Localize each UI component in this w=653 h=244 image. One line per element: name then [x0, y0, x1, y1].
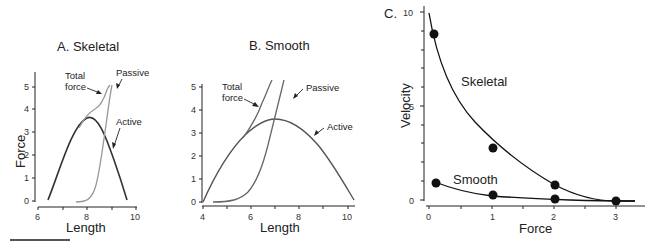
arrowhead-icon — [252, 102, 259, 107]
divider — [10, 239, 70, 241]
passive-label: Passive — [306, 82, 339, 93]
x-axis-label: Force — [519, 221, 552, 236]
total-force-label: force — [65, 81, 86, 92]
active-label: Active — [327, 121, 353, 132]
x-tick-label: 6 — [35, 212, 40, 222]
y-tick-label: 1 — [24, 173, 29, 183]
x-tick-label: 1 — [490, 212, 495, 222]
figure: A. Skeletal 0 1 2 3 4 5 6 8 10 Length Fo… — [0, 0, 653, 244]
smooth-point — [551, 195, 560, 204]
y-tick-label: 2 — [191, 151, 196, 161]
arrowhead-icon — [314, 130, 319, 136]
panel-a-title: A. Skeletal — [57, 39, 119, 54]
skeletal-point — [551, 181, 560, 190]
skeletal-point — [430, 30, 439, 39]
panel-skeletal-length-force: A. Skeletal 0 1 2 3 4 5 6 8 10 Length Fo… — [13, 39, 149, 235]
x-axis-label: Length — [260, 220, 300, 235]
x-tick-label: 6 — [248, 212, 253, 222]
smooth-point — [432, 179, 441, 188]
total-force-label: Total — [65, 70, 85, 81]
y-axis-label: Force — [13, 135, 28, 168]
y-tick-label: 5 — [191, 82, 196, 92]
y-tick-label: 0 — [409, 196, 414, 206]
active-curve — [48, 117, 127, 200]
y-tick-label: 4 — [191, 105, 196, 115]
arrow-icon — [114, 128, 120, 146]
y-tick-label: 5 — [24, 82, 29, 92]
total-force-label: Total — [222, 81, 242, 92]
y-tick-label: 4 — [24, 104, 29, 114]
smooth-label: Smooth — [453, 172, 498, 187]
x-tick-label: 10 — [342, 212, 352, 222]
panel-b-title: B. Smooth — [249, 38, 310, 53]
smooth-point — [489, 191, 498, 200]
passive-curve — [76, 85, 112, 202]
panel-c-title: C. — [384, 6, 397, 21]
y-axis-label: Velocity — [398, 83, 413, 128]
x-tick-label: 0 — [426, 212, 431, 222]
x-tick-label: 4 — [200, 212, 205, 222]
passive-label: Passive — [116, 67, 149, 78]
y-tick-label: 3 — [191, 128, 196, 138]
x-axis-label: Length — [66, 220, 106, 235]
skeletal-point — [612, 197, 621, 206]
total-force-curve — [243, 80, 272, 138]
arrowhead-icon — [293, 93, 298, 99]
skeletal-point — [489, 144, 498, 153]
y-tick-label: 0 — [191, 197, 196, 207]
y-tick-label: 10 — [403, 8, 413, 18]
panel-smooth-length-force: B. Smooth 0 1 2 3 4 5 4 6 8 10 Length To… — [191, 38, 355, 235]
y-tick-label: 1 — [191, 174, 196, 184]
panel-force-velocity: C. 10 5 0 0 1 2 3 Force Velocity — [384, 6, 645, 236]
total-force-label: force — [222, 92, 243, 103]
y-tick-label: 0 — [24, 196, 29, 206]
x-tick-label: 3 — [613, 212, 618, 222]
x-tick-label: 10 — [130, 212, 140, 222]
skeletal-label: Skeletal — [461, 74, 507, 89]
active-label: Active — [116, 116, 142, 127]
